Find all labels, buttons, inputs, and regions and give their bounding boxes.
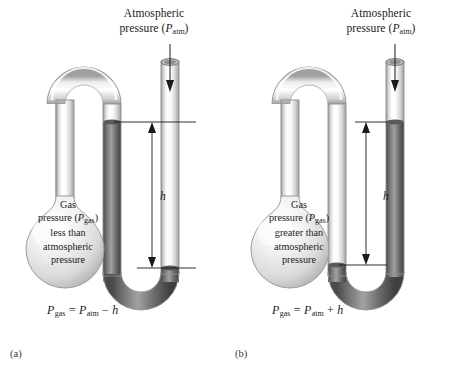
atm-prefix-a: pressure ( [119, 22, 165, 34]
eq-lhs-symbol-a: P [47, 303, 55, 317]
panel-caption-a: (a) [10, 348, 22, 359]
atm-subscript-a: atm [173, 27, 185, 36]
eq-rhs-symbol-a: P [79, 303, 87, 317]
bulb-suffix-b: ) [326, 212, 329, 223]
bulb-line1-b: Gas [251, 198, 347, 211]
eq-operator-b: + [327, 303, 334, 317]
eq-term-b: h [337, 303, 343, 317]
bulb-line3-a: less than [20, 226, 116, 239]
bulb-subscript-a: gas [84, 216, 95, 225]
eq-rhs-subscript-b: atm [312, 309, 324, 318]
atm-line1-b: Atmospheric [351, 7, 412, 19]
eq-lhs-subscript-b: gas [280, 309, 291, 318]
gas-bulb-label-b: Gas pressure (Pgas) greater than atmosph… [251, 198, 347, 266]
atm-line1-a: Atmospheric [124, 7, 185, 19]
bulb-prefix-b: pressure ( [269, 212, 309, 223]
atmospheric-pressure-label-a: Atmospheric pressure (Patm) [88, 6, 220, 37]
equation-a: Pgas = Patm − h [47, 303, 119, 318]
eq-rhs-subscript-a: atm [87, 309, 99, 318]
eq-equals-a: = [69, 303, 76, 317]
bulb-line2-a: pressure (Pgas) [20, 211, 116, 226]
panel-caption-b: (b) [235, 348, 247, 359]
manometer-figure: Atmospheric pressure (Patm) Gas pressure… [0, 0, 457, 370]
panel-b: Atmospheric pressure (Patm) Gas pressure… [229, 0, 457, 370]
bulb-suffix-a: ) [95, 212, 98, 223]
atm-prefix-b: pressure ( [346, 22, 392, 34]
eq-operator-a: − [102, 303, 109, 317]
bulb-line5-b: pressure [251, 253, 347, 266]
atmospheric-pressure-label-b: Atmospheric pressure (Patm) [315, 6, 447, 37]
bulb-prefix-a: pressure ( [38, 212, 78, 223]
eq-lhs-subscript-a: gas [55, 309, 66, 318]
eq-term-a: h [112, 303, 118, 317]
atm-suffix-b: ) [412, 22, 416, 34]
atm-line2-b: pressure (Patm) [315, 21, 447, 37]
atm-suffix-a: ) [185, 22, 189, 34]
panel-a: Atmospheric pressure (Patm) Gas pressure… [0, 0, 228, 370]
atm-symbol-a: P [165, 22, 172, 34]
height-label-b: h [383, 190, 389, 202]
bulb-line1-a: Gas [20, 198, 116, 211]
equation-b: Pgas = Patm + h [272, 303, 344, 318]
bulb-line4-a: atmospheric [20, 240, 116, 253]
bulb-line5-a: pressure [20, 253, 116, 266]
bulb-line2-b: pressure (Pgas) [251, 211, 347, 226]
eq-rhs-symbol-b: P [304, 303, 312, 317]
eq-equals-b: = [294, 303, 301, 317]
bulb-line3-b: greater than [251, 226, 347, 239]
atm-line2-a: pressure (Patm) [88, 21, 220, 37]
gas-bulb-label-a: Gas pressure (Pgas) less than atmospheri… [20, 198, 116, 266]
atm-subscript-b: atm [400, 27, 412, 36]
bulb-subscript-b: gas [315, 216, 326, 225]
height-label-a: h [160, 190, 166, 202]
eq-lhs-symbol-b: P [272, 303, 280, 317]
bulb-line4-b: atmospheric [251, 240, 347, 253]
atm-symbol-b: P [392, 22, 399, 34]
